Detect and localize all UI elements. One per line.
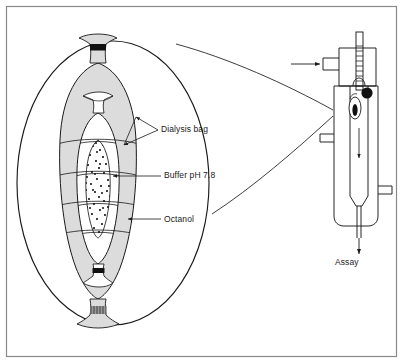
thermometer-bulb-icon bbox=[361, 87, 372, 98]
label-assay: Assay bbox=[335, 257, 359, 267]
capsule-core-icon bbox=[352, 104, 357, 116]
inner-bag-bottom-clip bbox=[93, 268, 105, 273]
label-buffer-ph: Buffer pH 7.8 bbox=[164, 170, 215, 180]
figure-root: Dialysis bag Buffer pH 7.8 Octanol Assay bbox=[0, 0, 403, 363]
thermometer-graduations bbox=[356, 46, 363, 86]
outer-bag-bottom-clip bbox=[90, 306, 106, 314]
label-dialysis-bag: Dialysis bag bbox=[161, 124, 208, 134]
label-octanol: Octanol bbox=[164, 214, 194, 224]
outer-bag-top-clip bbox=[90, 44, 106, 51]
outer-bag-bottom-neck bbox=[77, 299, 119, 328]
outer-bag-top-neck bbox=[79, 34, 117, 63]
apparatus bbox=[291, 32, 392, 254]
diagram-canvas bbox=[0, 0, 403, 363]
